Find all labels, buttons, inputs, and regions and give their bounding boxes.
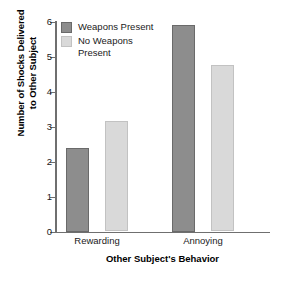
y-tick-label-3: 3: [12, 122, 52, 132]
x-category-label-rewarding: Rewarding: [42, 235, 152, 246]
y-tick-label-1: 1: [12, 192, 52, 202]
legend-item-weapons-present[interactable]: Weapons Present: [61, 21, 153, 33]
bar-no-weapons-present-annoying[interactable]: [211, 65, 234, 231]
x-axis-line: [55, 232, 270, 234]
legend-label-no-weapons-present: No Weapons Present: [78, 35, 133, 58]
legend-item-no-weapons-present[interactable]: No Weapons Present: [61, 35, 153, 58]
legend-swatch-icon-weapons-present: [61, 22, 72, 33]
bar-chart-figure: Number of Shocks Delivered to Other Subj…: [0, 0, 286, 286]
y-tick-label-2: 2: [12, 157, 52, 167]
bar-weapons-present-rewarding[interactable]: [66, 148, 89, 232]
bar-no-weapons-present-rewarding[interactable]: [105, 121, 128, 231]
y-axis-line: [55, 21, 57, 233]
x-axis-title: Other Subject's Behavior: [55, 253, 270, 264]
legend: Weapons Present No Weapons Present: [61, 21, 153, 60]
legend-swatch-icon-no-weapons-present: [61, 36, 72, 47]
y-tick-label-5: 5: [12, 52, 52, 62]
bar-weapons-present-annoying[interactable]: [172, 25, 195, 232]
x-category-label-annoying: Annoying: [148, 235, 258, 246]
legend-label-weapons-present: Weapons Present: [78, 21, 153, 33]
y-tick-label-4: 4: [12, 87, 52, 97]
y-tick-label-6: 6: [12, 17, 52, 27]
